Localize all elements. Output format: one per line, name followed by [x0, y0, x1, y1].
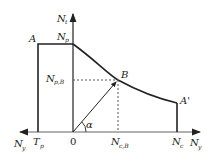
- tick-label-np: N p: [56, 31, 69, 44]
- tick-label-npb: N p,B: [45, 73, 65, 86]
- svg-text:y: y: [197, 143, 202, 151]
- svg-text:t: t: [65, 18, 68, 25]
- svg-text:y: y: [21, 144, 26, 152]
- svg-text:p,B: p,B: [54, 78, 65, 86]
- tick-label-nc: N c: [171, 136, 184, 149]
- point-a-prime-label: A': [179, 95, 190, 106]
- vertical-axis-label: N t: [56, 13, 68, 25]
- tick-label-ncb: N c,B: [110, 136, 129, 149]
- svg-text:c,B: c,B: [119, 142, 129, 149]
- point-a-label: A: [28, 33, 36, 44]
- svg-text:c: c: [180, 142, 184, 149]
- angle-label: α: [86, 119, 93, 130]
- svg-text:p: p: [65, 36, 69, 44]
- boundary-left: [38, 44, 73, 132]
- svg-text:p: p: [40, 142, 44, 150]
- interaction-diagram: N t N p A N p,B B A' α N y T p 0 N c,B N…: [0, 0, 212, 157]
- ray-origin-b: [73, 82, 116, 132]
- point-b-label: B: [120, 69, 128, 80]
- tick-label-tp: T p: [33, 136, 44, 150]
- right-axis-label: N y: [189, 137, 202, 151]
- origin-label: 0: [70, 136, 76, 147]
- left-axis-label: N y: [13, 138, 26, 152]
